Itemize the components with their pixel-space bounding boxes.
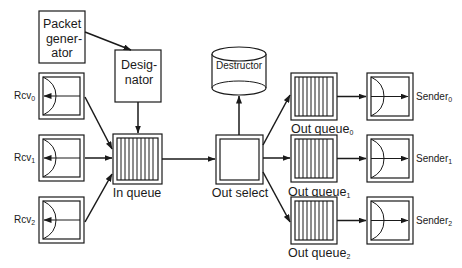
packet-generator-label-1: Packet [43,17,82,31]
rcv0-label: Rcv0 [14,90,35,102]
edge-outselect-outqueue0 [263,95,290,145]
receiver-rcv2: Rcv2 [14,197,84,243]
edge-generator-designator [85,32,131,50]
receiver-rcv1: Rcv1 [14,135,84,181]
rcv2-label: Rcv2 [14,214,35,226]
edge-rcv2-inqueue [85,174,112,222]
sender-1: Sender1 [367,135,452,182]
designator-label-2: nator [125,73,154,87]
out-select-node: Out select [212,135,269,200]
out-queue-2: Out queue2 [288,197,350,260]
out-queue-0: Out queue0 [291,73,353,136]
packet-generator-label-2: gener- [46,32,82,46]
packet-switch-diagram: Packet gener- ator Desig- nator Destruct… [0,0,462,268]
out-queue-0-label: Out queue0 [291,122,353,136]
in-queue-label: In queue [113,186,162,200]
sender-2: Sender2 [367,197,452,244]
sender-0: Sender0 [367,73,452,120]
receiver-rcv0: Rcv0 [14,73,84,119]
out-queue-1: Out queue1 [288,135,350,199]
destructor-label: Destructor [216,60,263,71]
destructor-node: Destructor [212,47,266,95]
edge-rcv0-inqueue [85,97,112,149]
out-queue-2-label: Out queue2 [288,246,350,260]
sender-2-label: Sender2 [416,215,452,227]
in-queue-node: In queue [113,134,162,200]
out-select-label: Out select [212,186,269,200]
sender-0-label: Sender0 [416,91,452,103]
designator-label-1: Desig- [121,58,157,72]
designator-node: Desig- nator [115,50,161,102]
packet-generator-node: Packet gener- ator [39,11,85,63]
packet-generator-label-3: ator [51,46,73,60]
rcv1-label: Rcv1 [14,152,35,164]
sender-1-label: Sender1 [416,153,452,165]
